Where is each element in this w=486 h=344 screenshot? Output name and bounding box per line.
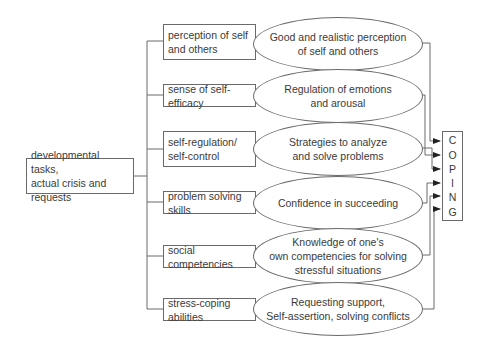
outcome-label: Strategies to analyze and solve problems [289, 135, 387, 163]
outcome-label: Confidence in succeeding [278, 196, 398, 210]
outcome-label: Requesting support, Self-assertion, solv… [266, 295, 410, 323]
outcome-ellipse-support: Requesting support, Self-assertion, solv… [253, 282, 423, 336]
resource-label: self-regulation/ self-control [168, 135, 237, 163]
resource-box-social-competencies: social competencies [163, 245, 256, 268]
resource-label: social competencies [168, 243, 251, 271]
outcome-ellipse-confidence: Confidence in succeeding [253, 176, 423, 230]
resource-box-problem-solving: problem solving skills [163, 191, 256, 214]
outcome-ellipse-regulation: Regulation of emotions and arousal [253, 69, 423, 123]
resource-box-stress-coping: stress-coping abilities [163, 298, 256, 321]
coping-letter: O [448, 149, 456, 161]
coping-letter: N [449, 191, 457, 203]
coping-letter: I [451, 177, 454, 189]
coping-letter: G [448, 206, 456, 218]
resource-box-self-regulation: self-regulation/ self-control [163, 131, 256, 167]
outcome-ellipse-perception: Good and realistic perception of self an… [253, 17, 423, 71]
source-box: developmental tasks, actual crisis and r… [26, 158, 134, 194]
resource-label: stress-coping abilities [168, 296, 251, 324]
resource-label: perception of self and others [168, 28, 248, 56]
coping-letter: C [449, 134, 457, 146]
resource-box-self-efficacy: sense of self-efficacy [163, 84, 256, 107]
outcome-label: Good and realistic perception of self an… [270, 30, 407, 58]
coping-letter: P [449, 163, 456, 175]
outcome-ellipse-strategies: Strategies to analyze and solve problems [253, 122, 423, 176]
resource-box-perception: perception of self and others [163, 24, 256, 60]
source-label: developmental tasks, actual crisis and r… [31, 148, 129, 204]
coping-box: C O P I N G [442, 131, 463, 221]
outcome-label: Regulation of emotions and arousal [284, 82, 391, 110]
outcome-label: Knowledge of one's own competencies for … [269, 235, 407, 277]
resource-label: problem solving skills [168, 189, 251, 217]
resource-label: sense of self-efficacy [168, 82, 251, 110]
outcome-ellipse-knowledge: Knowledge of one's own competencies for … [253, 228, 423, 284]
